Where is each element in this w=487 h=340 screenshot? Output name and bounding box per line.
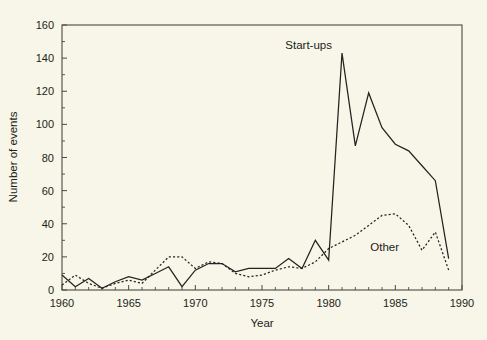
line-chart: 020406080100120140160 196019651970197519… (0, 0, 487, 340)
series-label-other: Other (370, 241, 399, 253)
x-tick-label: 1970 (183, 297, 207, 309)
x-tick-label: 1965 (116, 297, 140, 309)
y-tick-label: 60 (42, 185, 54, 197)
x-tick-label: 1990 (450, 297, 474, 309)
y-tick-label: 0 (48, 284, 54, 296)
series-label-start-ups: Start-ups (285, 39, 332, 51)
x-tick-label: 1980 (316, 297, 340, 309)
y-tick-label: 40 (42, 218, 54, 230)
y-axis-title: Number of events (7, 111, 19, 202)
plot-frame (62, 25, 462, 290)
y-axis-ticks (62, 25, 67, 290)
x-tick-label: 1975 (250, 297, 274, 309)
x-tick-label: 1960 (50, 297, 74, 309)
x-axis-title: Year (250, 317, 273, 329)
x-axis-ticks (62, 285, 462, 290)
series-annotations: Start-upsOther (285, 39, 399, 253)
chart-container: 020406080100120140160 196019651970197519… (0, 0, 487, 340)
y-tick-label: 120 (36, 85, 54, 97)
y-tick-label: 100 (36, 118, 54, 130)
y-tick-label: 160 (36, 19, 54, 31)
x-tick-label: 1985 (383, 297, 407, 309)
series-line-start-ups (62, 53, 449, 288)
y-tick-label: 20 (42, 251, 54, 263)
x-axis-tick-labels: 1960196519701975198019851990 (50, 297, 474, 309)
y-axis-tick-labels: 020406080100120140160 (36, 19, 54, 296)
y-tick-label: 140 (36, 52, 54, 64)
y-tick-label: 80 (42, 152, 54, 164)
data-series-group (62, 53, 449, 288)
